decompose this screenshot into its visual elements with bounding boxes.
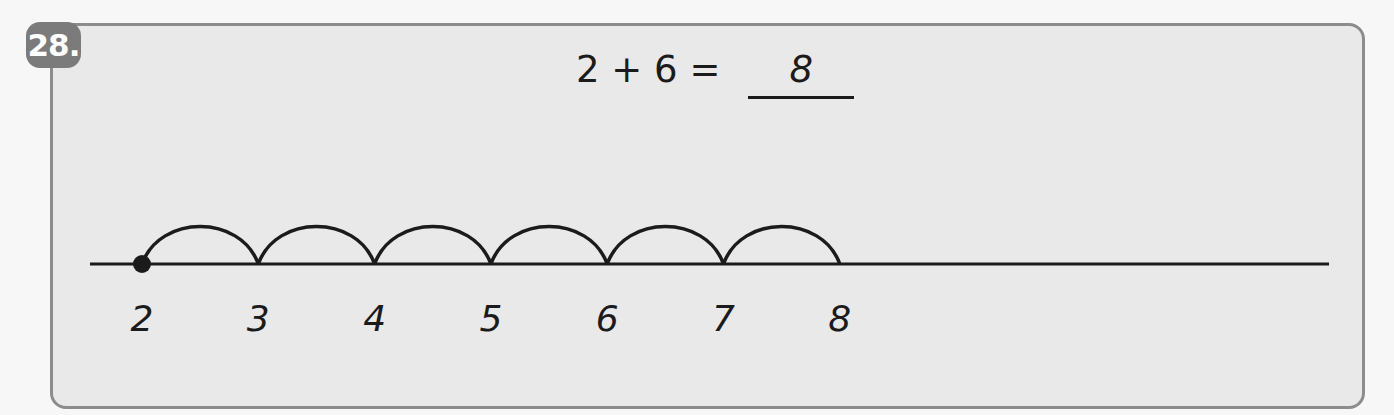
jump-arc <box>491 227 607 265</box>
tick-label: 4 <box>363 298 386 339</box>
tick-label: 8 <box>828 298 851 339</box>
tick-label: 2 <box>131 298 154 339</box>
tick-label: 7 <box>712 298 735 339</box>
tick-label: 6 <box>596 298 619 339</box>
start-point-dot <box>133 255 151 273</box>
jump-arc <box>258 227 374 265</box>
tick-label: 3 <box>247 298 270 339</box>
jump-arc <box>375 227 491 265</box>
jump-arc <box>724 227 840 265</box>
number-line-diagram: 2345678 <box>0 0 1394 415</box>
jump-arc <box>607 227 723 265</box>
jump-arc <box>142 227 258 265</box>
tick-label: 5 <box>479 298 502 339</box>
